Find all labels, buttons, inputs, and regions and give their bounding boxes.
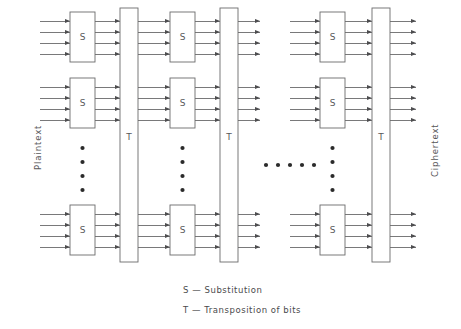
vertical-ellipsis-dot	[180, 174, 184, 178]
sp-network-diagram: SSSSSSSSSTTT Plaintext Ciphertext S — Su…	[0, 0, 461, 329]
vertical-ellipsis-dot	[330, 188, 334, 192]
diagram-canvas: SSSSSSSSSTTT	[0, 0, 461, 329]
substitution-box-label: S	[180, 98, 186, 108]
horizontal-ellipsis-dot	[300, 163, 304, 167]
substitution-box-label: S	[180, 32, 186, 42]
vertical-ellipsis-dot	[330, 160, 334, 164]
horizontal-ellipsis-dot	[264, 163, 268, 167]
vertical-ellipsis-dot	[180, 188, 184, 192]
transposition-box-label: T	[225, 132, 232, 142]
horizontal-ellipsis-dot	[312, 163, 316, 167]
legend-substitution: S — Substitution	[183, 285, 262, 295]
vertical-ellipsis-dot	[80, 160, 84, 164]
legend-transposition: T — Transposition of bits	[183, 305, 301, 315]
substitution-box-label: S	[180, 225, 186, 235]
substitution-box-label: S	[330, 32, 336, 42]
transposition-box-label: T	[377, 132, 384, 142]
vertical-ellipsis-dot	[180, 160, 184, 164]
plaintext-label: Plaintext	[33, 125, 43, 170]
substitution-box-label: S	[330, 225, 336, 235]
vertical-ellipsis-dot	[330, 174, 334, 178]
substitution-box-label: S	[80, 32, 86, 42]
vertical-ellipsis-dot	[180, 146, 184, 150]
vertical-ellipsis-dot	[80, 146, 84, 150]
horizontal-ellipsis-dot	[288, 163, 292, 167]
vertical-ellipsis-dot	[80, 174, 84, 178]
ciphertext-label: Ciphertext	[430, 123, 440, 177]
horizontal-ellipsis-dot	[276, 163, 280, 167]
substitution-box-label: S	[330, 98, 336, 108]
vertical-ellipsis-dot	[80, 188, 84, 192]
vertical-ellipsis-dot	[330, 146, 334, 150]
substitution-box-label: S	[80, 98, 86, 108]
substitution-box-label: S	[80, 225, 86, 235]
ellipsis-dots-layer	[80, 146, 334, 192]
transposition-box-label: T	[125, 132, 132, 142]
